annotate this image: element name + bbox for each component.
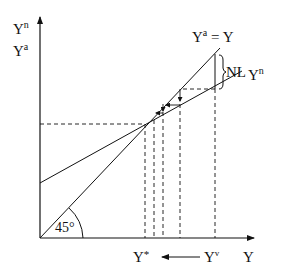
y-axis-label-yn: Yn <box>13 19 29 37</box>
line-yn-label: Yn <box>248 65 264 83</box>
line-yn <box>40 71 242 183</box>
angle-label: 45° <box>55 220 75 235</box>
yv-label: Yv <box>204 248 220 265</box>
y-axis-label-ya: Ya <box>13 41 29 59</box>
line-45-label: Ya = Y <box>192 27 234 45</box>
ystar-label: Y* <box>133 248 149 265</box>
nl-bracket <box>219 55 226 89</box>
line-45-degree <box>40 48 220 238</box>
keynesian-convergence-diagram: Yn Ya Ya = Y NL Yn 45° Y* Yv Y <box>0 0 281 278</box>
nl-label: NL <box>226 64 246 80</box>
x-axis-label: Y <box>243 249 254 265</box>
